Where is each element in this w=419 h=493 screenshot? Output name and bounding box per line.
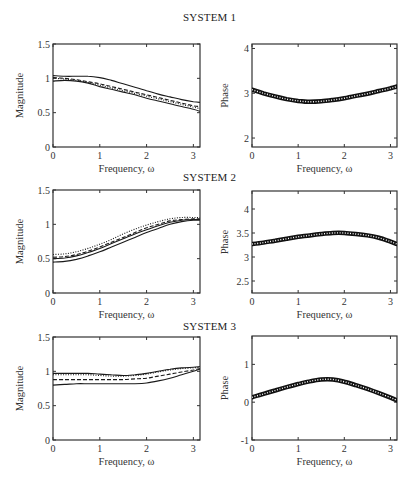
- y-tick-label: 1: [244, 359, 249, 370]
- chart-system-1-magnitude: 012300.511.5Frequency, ωMagnitude: [14, 39, 200, 175]
- x-tick-label: 2: [144, 296, 149, 307]
- x-tick-label: 0: [250, 150, 255, 161]
- plot-frame: [252, 336, 397, 440]
- y-tick-label: 1.5: [38, 332, 51, 343]
- x-tick-label: 3: [388, 150, 393, 161]
- x-tick-label: 0: [51, 150, 56, 161]
- y-axis-label: Phase: [219, 375, 230, 400]
- y-tick-label: 2: [244, 133, 249, 144]
- x-tick-label: 2: [342, 443, 347, 454]
- x-tick-label: 2: [342, 150, 347, 161]
- chart-system-3-phase: 0123-101Frequency, ωPhase: [219, 336, 397, 467]
- y-tick-label: 0: [244, 397, 249, 408]
- y-tick-label: -1: [241, 435, 249, 446]
- x-tick-label: 3: [388, 296, 393, 307]
- x-axis-label: Frequency, ω: [99, 309, 155, 320]
- x-tick-label: 3: [191, 296, 196, 307]
- x-tick-label: 1: [97, 296, 102, 307]
- x-axis-label: Frequency, ω: [297, 309, 353, 320]
- x-axis-label: Frequency, ω: [99, 163, 155, 174]
- y-tick-label: 4: [244, 204, 249, 215]
- y-tick-label: 3: [244, 252, 249, 263]
- x-tick-label: 2: [144, 443, 149, 454]
- plot-frame: [53, 337, 200, 440]
- y-axis-label: Magnitude: [14, 365, 25, 411]
- y-tick-label: 1.5: [38, 185, 51, 196]
- x-axis-label: Frequency, ω: [297, 456, 353, 467]
- y-axis-label: Phase: [219, 229, 230, 254]
- x-tick-label: 1: [97, 150, 102, 161]
- y-axis-label: Magnitude: [14, 218, 25, 264]
- x-tick-label: 0: [250, 443, 255, 454]
- y-tick-label: 0.5: [38, 253, 51, 264]
- plot-frame: [53, 190, 200, 293]
- x-tick-label: 1: [296, 296, 301, 307]
- chart-system-1-phase: 0123234Frequency, ωPhase: [219, 43, 397, 174]
- x-axis-label: Frequency, ω: [99, 456, 155, 467]
- x-tick-label: 1: [97, 443, 102, 454]
- x-tick-label: 1: [296, 443, 301, 454]
- y-axis-label: Phase: [219, 83, 230, 108]
- y-tick-label: 1: [45, 366, 50, 377]
- figure-canvas: 012300.511.5Frequency, ωMagnitude0123234…: [0, 0, 419, 493]
- x-tick-label: 1: [296, 150, 301, 161]
- chart-system-2-magnitude: 012300.511.5Frequency, ωMagnitude: [14, 185, 200, 321]
- y-tick-label: 2.5: [237, 276, 250, 287]
- y-tick-label: 3: [244, 88, 249, 99]
- plot-frame: [53, 44, 200, 147]
- chart-system-3-magnitude: 012300.511.5Frequency, ωMagnitude: [14, 332, 200, 468]
- y-tick-label: 0.5: [38, 400, 51, 411]
- x-tick-label: 0: [51, 443, 56, 454]
- y-tick-label: 0: [45, 288, 50, 299]
- x-tick-label: 3: [191, 443, 196, 454]
- y-tick-label: 1: [45, 219, 50, 230]
- x-tick-label: 2: [144, 150, 149, 161]
- y-tick-label: 1: [45, 73, 50, 84]
- x-tick-label: 3: [388, 443, 393, 454]
- y-tick-label: 0: [45, 435, 50, 446]
- x-axis-label: Frequency, ω: [297, 163, 353, 174]
- y-tick-label: 3.5: [237, 228, 250, 239]
- x-tick-label: 0: [51, 296, 56, 307]
- y-tick-label: 0: [45, 142, 50, 153]
- y-tick-label: 1.5: [38, 39, 51, 50]
- x-tick-label: 2: [342, 296, 347, 307]
- x-tick-label: 3: [191, 150, 196, 161]
- y-tick-label: 4: [244, 43, 249, 54]
- y-tick-label: 0.5: [38, 107, 51, 118]
- y-axis-label: Magnitude: [14, 72, 25, 118]
- chart-system-2-phase: 01232.533.54Frequency, ωPhase: [219, 191, 397, 320]
- x-tick-label: 0: [250, 296, 255, 307]
